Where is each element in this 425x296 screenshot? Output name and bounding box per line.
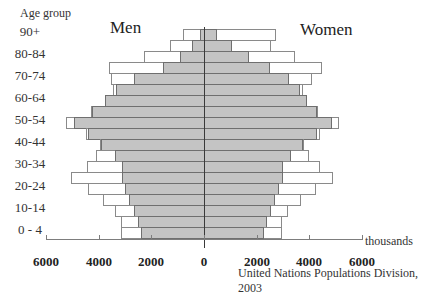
x-tick — [99, 235, 100, 240]
women-bar-shaded — [204, 227, 264, 239]
x-tick-label: 0 — [174, 254, 234, 270]
x-tick — [46, 235, 47, 240]
zero-line — [204, 27, 205, 248]
x-axis-units: thousands — [365, 234, 413, 249]
x-tick — [309, 235, 310, 240]
source-note: United Nations Populations Division, 200… — [238, 266, 425, 296]
x-tick-label: 6000 — [16, 254, 76, 270]
x-tick — [204, 235, 205, 240]
x-tick — [257, 235, 258, 240]
x-tick — [151, 235, 152, 240]
x-tick-label: 2000 — [121, 254, 181, 270]
x-tick — [362, 235, 363, 240]
x-tick-label: 4000 — [69, 254, 129, 270]
